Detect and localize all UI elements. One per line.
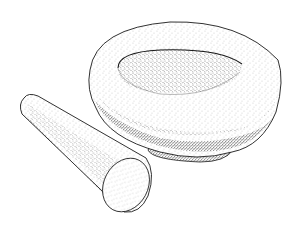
illustration-canvas [0,0,297,232]
mortar [89,22,281,162]
mortar-and-pestle-illustration [0,0,297,232]
